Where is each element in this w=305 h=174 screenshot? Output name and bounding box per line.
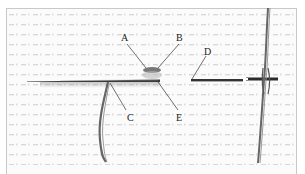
label-e: E (176, 113, 182, 123)
label-b: B (176, 33, 183, 43)
label-c: C (127, 113, 134, 123)
needle-eye-end (191, 79, 243, 81)
label-a: A (121, 33, 128, 43)
label-d: D (204, 47, 211, 57)
needle-thread-illustration (0, 0, 305, 174)
